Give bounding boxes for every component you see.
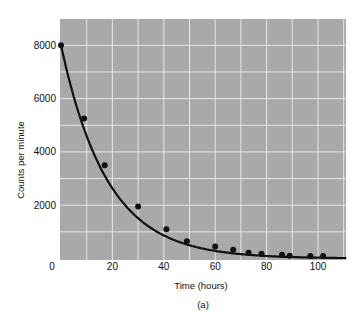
data-point [258,251,264,257]
x-tick-label: 20 [107,261,119,272]
data-point [320,253,326,259]
x-tick-label: 100 [310,261,327,272]
data-point [163,226,169,232]
y-tick-label: 8000 [34,40,57,51]
x-tick-label: 40 [158,261,170,272]
data-point [102,162,108,168]
data-point [230,247,236,253]
data-point [81,116,87,122]
x-tick-label: 0 [49,261,55,272]
x-axis-label: Time (hours) [174,280,228,291]
data-point [184,238,190,244]
decay-chart: 020406080100 2000400060008000 Counts per… [0,0,364,316]
figure-caption: (a) [197,299,209,310]
data-point [287,253,293,259]
data-point [212,244,218,250]
data-point [307,253,313,259]
y-axis-label: Counts per minute [15,121,26,199]
x-axis-ticks: 020406080100 [49,261,327,272]
x-tick-label: 80 [261,261,273,272]
y-tick-label: 4000 [34,146,57,157]
y-tick-label: 2000 [34,200,57,211]
x-tick-label: 60 [210,261,222,272]
plot-area [60,19,346,260]
data-point [58,42,64,48]
data-point [135,204,141,210]
y-axis-ticks: 2000400060008000 [34,40,57,211]
y-tick-label: 6000 [34,93,57,104]
data-point [279,252,285,258]
data-point [246,250,252,256]
